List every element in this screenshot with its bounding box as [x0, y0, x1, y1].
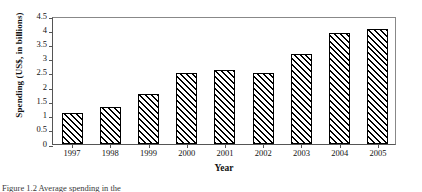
- x-tick-label: 2003: [293, 149, 310, 158]
- bar: [176, 73, 197, 144]
- x-tick-label: 1999: [140, 149, 157, 158]
- bar: [138, 94, 159, 144]
- x-tick-label: 2001: [216, 149, 233, 158]
- y-tick-label: 4: [43, 26, 47, 35]
- y-tick-label: 2: [43, 83, 47, 92]
- y-tick-label: 0.5: [36, 125, 47, 134]
- plot-area: 00.511.522.533.544.5 1997199819992000200…: [52, 17, 396, 145]
- bar: [253, 73, 274, 144]
- y-tick-label: 2.5: [36, 68, 47, 77]
- bar-group: 2001: [206, 18, 244, 144]
- bar-group: 2004: [321, 18, 359, 144]
- bar: [100, 107, 121, 144]
- x-axis-title: Year: [52, 163, 396, 173]
- y-tick-label: 1: [43, 111, 47, 120]
- figure-container: Spending (US$, in billions) 00.511.522.5…: [0, 0, 422, 192]
- bar-group: 2002: [244, 18, 282, 144]
- x-tick-label: 2005: [369, 149, 386, 158]
- y-axis-title: Spending (US$, in billions): [14, 0, 24, 140]
- bar-group: 1997: [53, 18, 91, 144]
- bar-group: 2000: [168, 18, 206, 144]
- bar-series: 199719981999200020012002200320042005: [53, 18, 395, 144]
- y-tick-label: 0: [43, 140, 47, 149]
- y-tick-label: 3.5: [36, 40, 47, 49]
- y-tick-label: 4.5: [36, 12, 47, 21]
- bar-group: 1998: [91, 18, 129, 144]
- y-tick-label: 3: [43, 54, 47, 63]
- x-tick-label: 2004: [331, 149, 348, 158]
- y-tick-mark: [49, 146, 53, 147]
- bar: [291, 54, 312, 144]
- x-tick-label: 1998: [102, 149, 119, 158]
- bar-group: 2003: [282, 18, 320, 144]
- x-tick-label: 2000: [178, 149, 195, 158]
- bar: [367, 29, 388, 144]
- bar: [214, 70, 235, 144]
- bar: [62, 113, 83, 144]
- y-tick-label: 1.5: [36, 97, 47, 106]
- figure-caption: Figure 1.2 Average spending in the: [2, 183, 242, 192]
- x-tick-label: 1997: [64, 149, 81, 158]
- x-tick-label: 2002: [255, 149, 272, 158]
- bar-group: 2005: [359, 18, 397, 144]
- bar-group: 1999: [129, 18, 167, 144]
- bar: [329, 33, 350, 144]
